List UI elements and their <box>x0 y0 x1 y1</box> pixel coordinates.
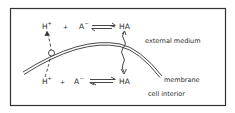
membrane-curve <box>23 43 162 78</box>
cell-interior-label: cell interior <box>148 90 185 98</box>
top-equilibrium-arrow-icon <box>92 23 116 31</box>
bottom-ha: HA <box>119 77 131 86</box>
top-a-minus-sup: − <box>85 20 89 26</box>
bottom-equilibrium-arrow-icon <box>90 77 116 85</box>
carrier-circle-icon <box>49 50 55 56</box>
top-ha: HA <box>119 22 131 31</box>
bottom-a-minus-sup: − <box>80 75 84 81</box>
ha-diffusion-arrow-icon <box>121 31 127 74</box>
bottom-plus: + <box>60 78 65 85</box>
top-plus: + <box>63 23 68 30</box>
bottom-h-plus-sup: + <box>48 75 52 81</box>
membrane-label: membrane <box>164 76 200 84</box>
external-medium-label: external medium <box>145 37 201 45</box>
membrane-diagram: H + + A − HA H + + A − HA external mediu… <box>0 0 235 113</box>
top-h-plus-sup: + <box>48 20 52 26</box>
